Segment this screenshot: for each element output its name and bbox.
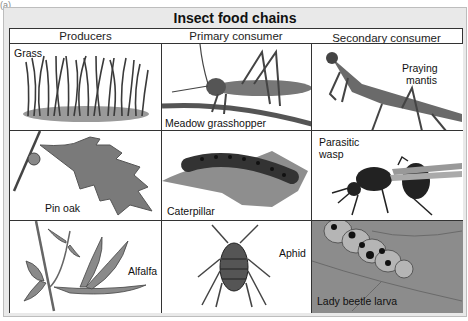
- mantis-illustration: [312, 44, 463, 131]
- label-wasp: Parasitic wasp: [319, 136, 359, 160]
- aphid-illustration: [162, 221, 312, 313]
- pin-oak-illustration: [10, 131, 162, 221]
- cell-wasp: Parasitic wasp: [311, 130, 463, 221]
- cell-grass: Grass: [9, 43, 162, 131]
- label-aphid: Aphid: [279, 247, 306, 259]
- label-grasshopper: Meadow grasshopper: [165, 117, 266, 129]
- food-chain-figure: Insect food chains Producers Primary con…: [3, 7, 467, 317]
- label-alfalfa: Alfalfa: [128, 265, 157, 277]
- label-caterpillar: Caterpillar: [167, 205, 215, 217]
- cell-pin-oak: Pin oak: [9, 130, 162, 221]
- figure-title: Insect food chains: [4, 10, 466, 26]
- label-pin-oak: Pin oak: [45, 202, 80, 214]
- label-mantis: Praying mantis: [402, 62, 438, 86]
- cell-grasshopper: Meadow grasshopper: [161, 43, 312, 131]
- cell-aphid: Aphid: [161, 220, 312, 313]
- header-primary: Primary consumer: [161, 29, 311, 43]
- header-producers: Producers: [10, 29, 161, 43]
- label-grass: Grass: [14, 47, 42, 59]
- cell-alfalfa: Alfalfa: [9, 220, 162, 313]
- cell-mantis: Praying mantis: [311, 43, 463, 131]
- label-lady-beetle-larva: Lady beetle larva: [317, 295, 397, 307]
- food-chain-table: Producers Primary consumer Secondary con…: [9, 28, 463, 313]
- cell-lady-beetle-larva: Lady beetle larva: [311, 220, 463, 313]
- cell-caterpillar: Caterpillar: [161, 130, 312, 221]
